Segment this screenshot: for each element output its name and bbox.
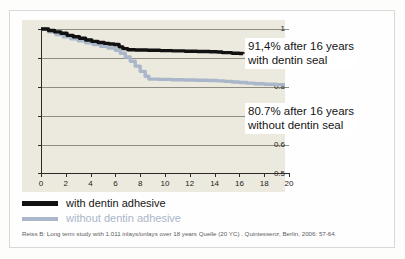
chart-legend: with dentin adhesive without dentin adhe…: [22, 196, 322, 226]
legend-line-icon-black: [22, 201, 58, 206]
annotation-with-dentin-seal: 91,4% after 16 years with dentin seal: [245, 38, 357, 69]
annotation-without-line1: 80.7% after 16 years: [248, 105, 354, 119]
legend-item-without-dentin-adhesive: without dentin adhesive: [22, 211, 322, 226]
annotation-with-line1: 91,4% after 16 years: [248, 40, 354, 54]
legend-label-with-dentin-adhesive: with dentin adhesive: [66, 196, 166, 211]
legend-line-icon-gray: [22, 217, 58, 221]
annotation-with-line2: with dentin seal: [248, 54, 354, 68]
legend-item-with-dentin-adhesive: with dentin adhesive: [22, 196, 322, 211]
source-citation: Reiss B: Long term study with 1.011 inla…: [22, 230, 392, 238]
series-with-dentin-adhesive: [41, 29, 243, 54]
annotation-without-dentin-seal: 80.7% after 16 years without dentin seal: [245, 103, 357, 134]
legend-label-without-dentin-adhesive: without dentin adhesive: [66, 211, 181, 226]
survival-chart-figure: 1 0.9 0.8 0.7 0.6 0.5 0 2 4 6 8 10: [0, 0, 405, 259]
x-tick-mark: [289, 173, 290, 177]
annotation-without-line2: without dentin seal: [248, 119, 354, 133]
